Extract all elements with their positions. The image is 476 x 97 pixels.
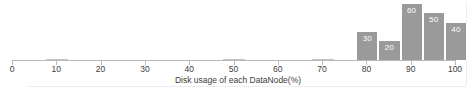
x-axis-tick-label: 20 [96, 64, 105, 74]
x-axis-tick-label: 0 [10, 64, 15, 74]
disk-usage-histogram-panel: 3020605040 Disk usage of each DataNode(%… [0, 0, 476, 97]
histogram-bar: 60 [401, 4, 423, 60]
x-axis-tick-label: 40 [184, 64, 193, 74]
bar-value-label: 40 [446, 25, 466, 35]
histogram-bar: 20 [378, 41, 400, 60]
histogram-bar: 50 [423, 13, 445, 60]
x-axis-title: Disk usage of each DataNode(%) [0, 75, 476, 85]
histogram-bar: 40 [445, 23, 467, 60]
x-axis-tick-label: 80 [362, 64, 371, 74]
bar-value-label: 20 [379, 43, 399, 53]
x-axis-tick-label: 60 [273, 64, 282, 74]
bar-value-label: 60 [402, 6, 422, 16]
bar-value-label: 50 [424, 15, 444, 25]
x-axis-tick-label: 10 [52, 64, 61, 74]
x-axis-tick-label: 70 [317, 64, 326, 74]
panel-bottom-divider [28, 86, 466, 87]
plot-area: 3020605040 [12, 4, 455, 60]
histogram-bar: 30 [356, 32, 378, 60]
x-axis-tick-label: 50 [229, 64, 238, 74]
x-axis-tick-label: 100 [448, 64, 462, 74]
bar-value-label: 30 [357, 34, 377, 44]
x-axis-tick-label: 30 [140, 64, 149, 74]
x-axis-tick-label: 90 [406, 64, 415, 74]
